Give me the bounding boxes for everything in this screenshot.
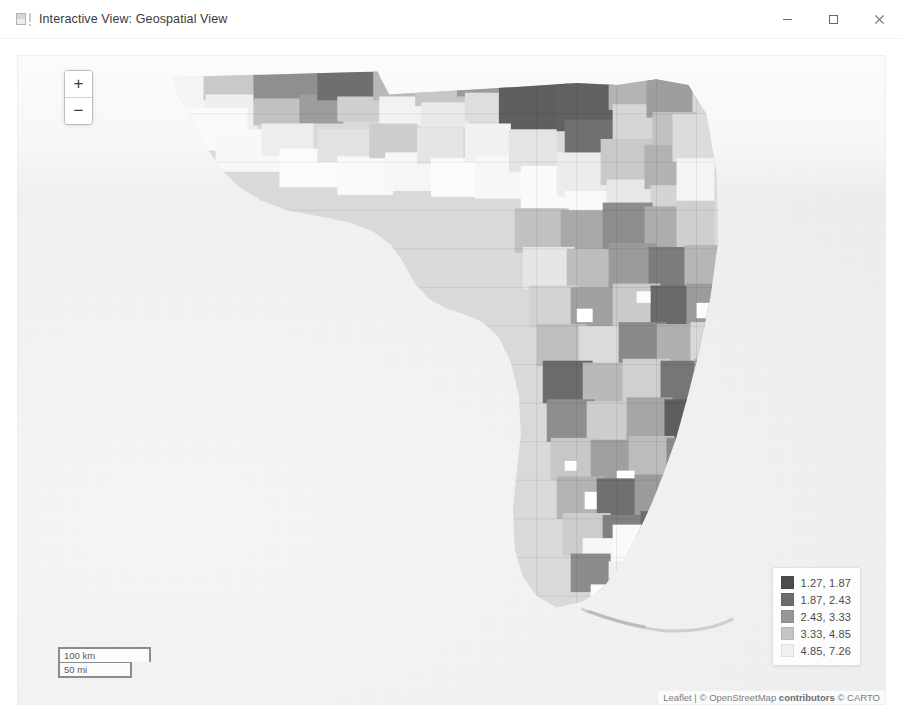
contributors-label: contributors <box>776 692 835 703</box>
leaflet-link[interactable]: Leaflet <box>663 692 692 703</box>
legend-swatch <box>781 610 794 623</box>
openstreetmap-link[interactable]: OpenStreetMap <box>709 692 776 703</box>
app-icon <box>16 12 31 27</box>
copyright-symbol-2: © <box>835 692 847 703</box>
scale-control: 100 km 50 mi <box>58 647 151 678</box>
map-container: + − 1.27, 1.87 1.87, 2.43 2.43, 3.33 <box>0 39 902 723</box>
close-button[interactable] <box>856 0 902 38</box>
legend-label: 1.27, 1.87 <box>801 577 851 589</box>
legend-item: 3.33, 4.85 <box>781 626 851 641</box>
choropleth-legend: 1.27, 1.87 1.87, 2.43 2.43, 3.33 3.33, 4… <box>772 567 861 666</box>
florida-keys <box>583 610 733 631</box>
choropleth-polygons <box>18 56 885 704</box>
legend-label: 1.87, 2.43 <box>801 594 851 606</box>
leaflet-map[interactable]: + − 1.27, 1.87 1.87, 2.43 2.43, 3.33 <box>17 55 886 705</box>
interactive-view-window: Interactive View: Geospatial View <box>0 0 902 723</box>
window-controls <box>764 0 902 38</box>
legend-label: 3.33, 4.85 <box>801 628 851 640</box>
legend-item: 4.85, 7.26 <box>781 643 851 658</box>
maximize-button[interactable] <box>810 0 856 38</box>
scale-metric: 100 km <box>58 647 151 662</box>
legend-item: 2.43, 3.33 <box>781 609 851 624</box>
legend-label: 4.85, 7.26 <box>801 645 851 657</box>
choropleth-layer[interactable] <box>18 56 885 704</box>
legend-swatch <box>781 576 794 589</box>
legend-swatch <box>781 593 794 606</box>
legend-label: 2.43, 3.33 <box>801 611 851 623</box>
scale-imperial: 50 mi <box>58 662 132 678</box>
copyright-symbol: © <box>699 692 709 703</box>
minimize-button[interactable] <box>764 0 810 38</box>
legend-item: 1.87, 2.43 <box>781 592 851 607</box>
legend-item: 1.27, 1.87 <box>781 575 851 590</box>
window-title: Interactive View: Geospatial View <box>39 12 227 26</box>
legend-swatch <box>781 644 794 657</box>
zoom-in-button[interactable]: + <box>65 71 92 98</box>
window-titlebar[interactable]: Interactive View: Geospatial View <box>0 0 902 39</box>
legend-swatch <box>781 627 794 640</box>
zoom-out-button[interactable]: − <box>65 98 92 124</box>
map-attribution: Leaflet | © OpenStreetMap contributors ©… <box>658 691 885 704</box>
zoom-control[interactable]: + − <box>64 70 93 125</box>
carto-link[interactable]: CARTO <box>847 692 880 703</box>
